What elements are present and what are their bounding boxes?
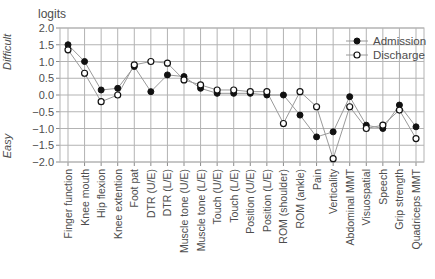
admission-marker [98, 87, 104, 93]
x-category-label: Muscle tone (U/E) [178, 169, 190, 253]
y-tick-label: −1.0 [32, 123, 54, 135]
discharge-marker [148, 59, 154, 65]
x-category-label: DTR (L/E) [161, 169, 173, 216]
discharge-marker [347, 104, 353, 110]
x-category-label: Touch (L/E) [228, 169, 240, 223]
chart-figure: 2.01.51.00.50.0−0.5−1.0−1.5−2.0 Finger f… [0, 0, 435, 279]
y-tick-label: −0.5 [32, 106, 54, 118]
y-tick-label: 1.5 [39, 39, 54, 51]
legend-label-admission: Admission [373, 35, 426, 47]
admission-marker [297, 112, 303, 118]
discharge-marker [164, 60, 170, 66]
discharge-marker [264, 89, 270, 95]
admission-marker [314, 134, 320, 140]
y-axis-unit-label: logits [38, 7, 66, 21]
y-tick-label: 0.5 [39, 72, 54, 84]
discharge-marker [131, 62, 137, 68]
discharge-marker [214, 87, 220, 93]
legend-open-circle-icon [354, 52, 360, 58]
x-category-label: Speech [377, 169, 389, 205]
discharge-marker [115, 92, 121, 98]
x-category-label: Foot pat [128, 169, 140, 208]
x-category-labels: Finger functionKnee mouthHip flexionKnee… [62, 168, 422, 253]
x-category-label: Abdominal MMT [344, 168, 356, 245]
admission-marker [347, 94, 353, 100]
discharge-marker [396, 107, 402, 113]
discharge-marker [181, 77, 187, 83]
x-category-label: Finger function [62, 169, 74, 239]
x-category-label: Hip flexion [95, 169, 107, 218]
x-category-label: Pain [311, 169, 323, 190]
discharge-marker [82, 70, 88, 76]
admission-marker [330, 129, 336, 135]
admission-marker [82, 59, 88, 65]
admission-marker [164, 72, 170, 78]
line-chart: 2.01.51.00.50.0−0.5−1.0−1.5−2.0 Finger f… [0, 0, 435, 279]
admission-marker [280, 92, 286, 98]
admission-marker [413, 124, 419, 130]
discharge-marker [380, 122, 386, 128]
discharge-marker [280, 120, 286, 126]
y-tick-label: 1.0 [39, 56, 54, 68]
discharge-marker [98, 99, 104, 105]
legend: Admission Discharge [346, 35, 426, 61]
x-category-label: Position (U/E) [244, 169, 256, 234]
y-tick-label: −2.0 [32, 156, 54, 168]
legend-filled-circle-icon [354, 38, 360, 44]
discharge-marker [65, 47, 71, 53]
discharge-marker [314, 104, 320, 110]
x-category-label: Touch (U/E) [211, 169, 223, 224]
y-tick-labels: 2.01.51.00.50.0−0.5−1.0−1.5−2.0 [32, 22, 54, 168]
discharge-marker [297, 89, 303, 95]
x-category-label: Position (L/E) [261, 169, 273, 232]
y-axis-easy-label: Easy [1, 132, 13, 158]
y-tick-label: 2.0 [39, 22, 54, 34]
x-category-label: Quadriceps MMT [410, 168, 422, 249]
x-category-label: ROM (ankle) [294, 169, 306, 229]
y-tick-label: −1.5 [32, 139, 54, 151]
x-category-label: Grip strength [393, 169, 405, 230]
discharge-marker [413, 136, 419, 142]
y-axis-difficult-label: Difficult [1, 33, 13, 70]
y-tick-label: 0.0 [39, 89, 54, 101]
discharge-marker [247, 89, 253, 95]
x-category-label: Visuospatial [360, 169, 372, 225]
x-category-label: ROM (shoulder) [277, 169, 289, 244]
discharge-marker [198, 82, 204, 88]
discharge-marker [231, 87, 237, 93]
x-category-label: DTR (U/E) [145, 169, 157, 218]
admission-marker [115, 85, 121, 91]
x-category-label: Verticality [327, 168, 339, 214]
x-category-label: Knee extention [112, 169, 124, 239]
discharge-marker [363, 126, 369, 132]
discharge-marker [330, 156, 336, 162]
x-category-label: Muscle tone (L/E) [195, 169, 207, 251]
series-line-discharge [68, 50, 416, 159]
admission-marker [148, 89, 154, 95]
x-category-label: Knee mouth [79, 169, 91, 226]
legend-label-discharge: Discharge [373, 49, 425, 61]
